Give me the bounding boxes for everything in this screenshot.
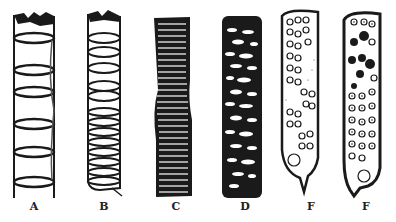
panel-d-reticulate-vessel (220, 0, 264, 200)
panel-f-pitted-vessel (278, 0, 322, 200)
panel-b-spiral-vessel (84, 0, 124, 200)
label-c: C (166, 200, 186, 213)
panel-f-bordered-pitted-vessel (340, 0, 386, 200)
label-a: A (24, 200, 44, 213)
panel-a-annular-vessel (10, 0, 58, 200)
label-f-second: F (356, 200, 376, 213)
label-d: D (235, 200, 255, 213)
label-f-first: F (301, 200, 321, 213)
panel-c-scalariform-vessel (150, 0, 194, 200)
label-b: B (94, 200, 114, 213)
